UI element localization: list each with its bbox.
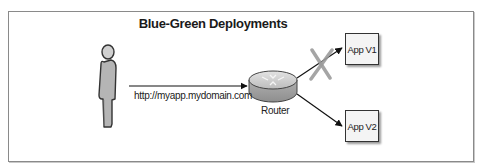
app-v2-box: App V2 xyxy=(345,110,379,142)
app-v1-box: App V1 xyxy=(345,33,379,65)
person-icon xyxy=(99,45,116,127)
x-cross-icon xyxy=(311,50,332,79)
route-arrow-v2 xyxy=(297,94,342,126)
app-v2-label: App V2 xyxy=(348,121,377,132)
app-v1-label: App V1 xyxy=(348,44,377,55)
router-label: Router xyxy=(261,105,289,116)
router-icon xyxy=(249,71,297,102)
url-label: http://myapp.mydomain.com xyxy=(134,90,252,101)
diagram-canvas xyxy=(0,0,482,166)
